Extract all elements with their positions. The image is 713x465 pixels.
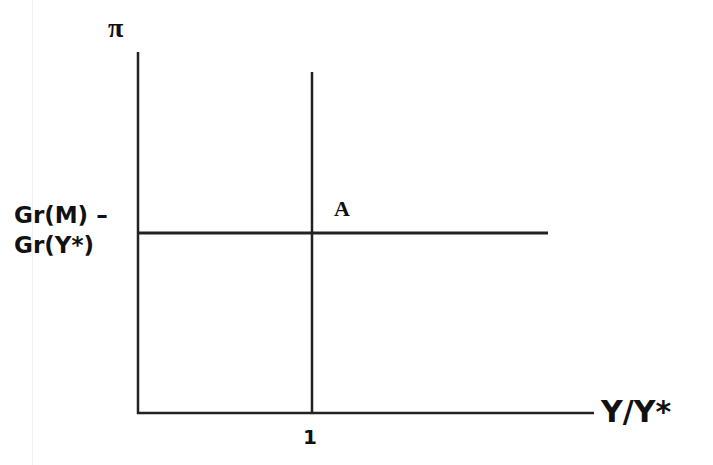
intersection-label: A <box>334 196 350 222</box>
horizontal-line-label-line1: Gr(M) – <box>14 202 108 228</box>
horizontal-line-label-line2: Gr(Y*) <box>14 232 94 258</box>
x-axis-label: Y/Y* <box>601 394 671 429</box>
y-axis-label: π <box>108 12 123 44</box>
vertical-line-tick-label: 1 <box>303 425 317 449</box>
